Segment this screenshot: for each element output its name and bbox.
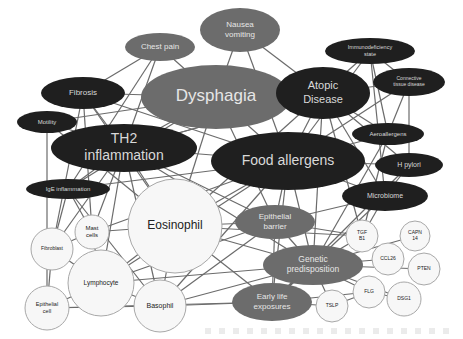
node-early: Early lifeexposures <box>232 283 312 321</box>
node-pten: PTEN <box>408 253 440 285</box>
node-epi-barrier: Epithelialbarrier <box>235 205 315 239</box>
node-lymphocyte: Lymphocyte <box>68 250 134 316</box>
node-label: Atopic <box>308 79 339 91</box>
node-label: CCL26 <box>380 255 396 261</box>
node-dysphagia: Dysphagia <box>141 65 291 129</box>
node-capn14: CAPN14 <box>400 221 430 251</box>
node-label: TSLP <box>326 302 339 308</box>
node-label: Motility <box>38 119 57 125</box>
node-label: Eosinophil <box>147 218 202 232</box>
node-label: Food allergens <box>242 152 335 168</box>
node-nausea: Nauseavomiting <box>200 8 280 52</box>
node-label: 14 <box>412 235 418 241</box>
node-label: Microbiome <box>367 192 403 199</box>
node-epithelial-cell: Epithelialcell <box>25 286 69 330</box>
node-label: cell <box>43 308 51 314</box>
node-label: exposures <box>254 302 291 311</box>
node-label: vomiting <box>225 30 255 39</box>
node-label: IgE inflammation <box>46 186 91 192</box>
node-atopic: AtopicDisease <box>276 67 370 119</box>
node-basophil: Basophil <box>134 280 186 332</box>
node-label: Dysphagia <box>176 86 257 105</box>
node-label: H pylori <box>397 161 421 169</box>
node-label: Immunodeficiency <box>348 44 393 50</box>
node-label: cells <box>86 232 98 238</box>
node-dsg1: DSG1 <box>387 282 421 316</box>
node-label: Genetic <box>298 254 328 264</box>
node-label: barrier <box>263 222 286 231</box>
node-genetic: Geneticpredisposition <box>263 245 363 285</box>
node-fibrosis: Fibrosis <box>41 77 125 109</box>
node-connective: Connectivetissue disease <box>373 68 445 96</box>
node-label: DSG1 <box>397 295 411 301</box>
node-eosinophil: Eosinophil <box>128 179 222 273</box>
node-ige: IgE inflammation <box>26 179 110 199</box>
node-label: Basophil <box>147 302 174 310</box>
node-tgfb1: TGFB1 <box>346 220 378 252</box>
node-aero: Aeroallergens <box>352 123 424 145</box>
faded-caption-text <box>205 328 455 334</box>
node-label: tissue disease <box>393 81 425 87</box>
node-label: FLG <box>364 288 374 294</box>
node-label: Fibrosis <box>69 88 97 97</box>
node-label: Fibroblast <box>41 245 64 251</box>
node-label: predisposition <box>287 264 340 274</box>
node-label: Lymphocyte <box>84 279 119 287</box>
node-tslp: TSLP <box>316 290 348 322</box>
node-label: state <box>364 51 376 57</box>
node-food: Food allergens <box>211 132 365 190</box>
network-svg: Chest painNauseavomitingDysphagiaFibrosi… <box>0 0 463 339</box>
node-label: Aeroallergens <box>369 131 406 137</box>
node-chest-pain: Chest pain <box>125 33 195 61</box>
node-th2: TH2inflammation <box>51 124 197 172</box>
node-label: Disease <box>303 93 343 105</box>
node-immuno: Immunodeficiencystate <box>325 38 415 64</box>
network-diagram: Chest painNauseavomitingDysphagiaFibrosi… <box>0 0 463 339</box>
node-hpylori: H pylori <box>375 153 443 177</box>
node-flg: FLG <box>353 276 385 308</box>
node-label: Epithelial <box>259 212 292 221</box>
node-label: Mast <box>85 225 98 231</box>
node-label: Epithelial <box>36 301 58 307</box>
node-fibroblast: Fibroblast <box>31 228 73 270</box>
node-ccl26: CCL26 <box>372 243 404 275</box>
node-label: Nausea <box>226 20 254 29</box>
node-label: B1 <box>359 235 365 241</box>
node-label: inflammation <box>84 147 163 163</box>
node-microbiome: Microbiome <box>342 181 428 211</box>
node-label: PTEN <box>417 265 431 271</box>
node-mast: Mastcells <box>75 215 109 249</box>
node-label: Chest pain <box>141 42 179 51</box>
node-label: TH2 <box>111 130 138 146</box>
node-label: Early life <box>257 292 288 301</box>
node-motility: Motility <box>17 111 77 133</box>
